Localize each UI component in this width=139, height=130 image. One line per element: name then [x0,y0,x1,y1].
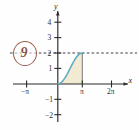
x-tick-label-2pi: 2π [107,87,115,96]
y-tick-label-minus-2: −2 [45,111,53,120]
figure-number-badge: 9 [13,41,35,64]
x-axis-arrow-icon [124,82,129,86]
x-tick-label-pi: π [80,87,84,96]
x-axis-label: x [129,76,133,85]
y-tick-label-1: 1 [49,64,53,73]
y-axis-arrow-icon [56,11,60,16]
x-tick-label-minus-pi: −π [21,87,29,96]
badge-number-label: 9 [21,46,28,60]
y-tick-label-2: 2 [48,49,52,58]
y-tick-label-4: 4 [48,18,52,27]
y-tick-label-3: 3 [48,33,52,42]
y-axis-label: y [54,2,58,11]
y-tick-label-minus-1: −1 [45,95,53,104]
figure-container: 9 x y −π π 2π 4 3 2 1 −1 −2 [0,0,139,130]
